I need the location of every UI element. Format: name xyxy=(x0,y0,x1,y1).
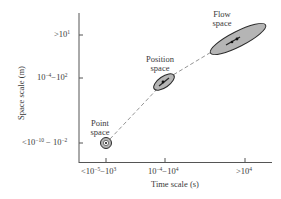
position-space-label: Position space xyxy=(140,55,180,73)
flow-space-label-line2: space xyxy=(207,19,237,28)
flow-space-label: Flow space xyxy=(207,10,237,28)
y-tick-label-2: 10−4−102 xyxy=(37,73,67,82)
y-tick-label-1: >101 xyxy=(54,30,70,39)
y-tick-label-3: <10−10 − 10−2 xyxy=(22,138,67,147)
flow-space-dot-1 xyxy=(231,41,234,44)
x-tick-label-1: <10−5−103 xyxy=(81,167,116,176)
position-space-label-line2: space xyxy=(140,64,180,73)
x-tick-label-2: 10−4−104 xyxy=(148,167,178,176)
x-axis-label: Time scale (s) xyxy=(151,180,199,189)
position-space-dot xyxy=(162,81,165,84)
point-space-dot xyxy=(105,142,107,144)
x-tick-label-3: >104 xyxy=(236,167,252,176)
point-space-label-line2: space xyxy=(85,128,115,137)
y-axis-label: Space scale (m) xyxy=(16,58,26,128)
flow-space-dot-2 xyxy=(236,38,239,41)
point-space-label: Point space xyxy=(85,119,115,137)
